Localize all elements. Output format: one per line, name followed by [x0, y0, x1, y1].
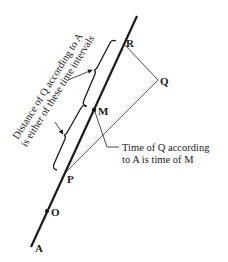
callout-line-m: [95, 112, 119, 147]
event-dot-m: [92, 108, 97, 113]
spacetime-diagram: R Q M P O A Time of Q according to A is …: [0, 0, 228, 262]
label-p: P: [67, 173, 74, 185]
label-m: M: [98, 105, 109, 117]
event-dot-o: [45, 209, 49, 213]
label-o: O: [51, 206, 60, 218]
arrow-to-lower-brace: [55, 122, 63, 134]
label-r: R: [126, 37, 135, 49]
light-ray-q-to-r: [124, 44, 158, 80]
time-note-line1: Time of Q according: [122, 142, 210, 153]
label-a: A: [35, 242, 43, 254]
time-note-line2: to A is time of M: [122, 154, 194, 165]
label-q: Q: [160, 75, 169, 87]
distance-note-line1: Distance of Q according to A: [10, 31, 85, 141]
